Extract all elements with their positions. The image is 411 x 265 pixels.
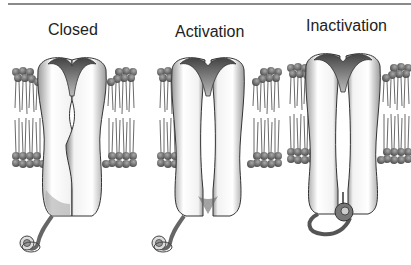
ion-channel-diagram (0, 0, 411, 265)
channel-activation (152, 58, 282, 252)
channel-inactivation (287, 54, 411, 235)
channel-closed (12, 58, 137, 252)
